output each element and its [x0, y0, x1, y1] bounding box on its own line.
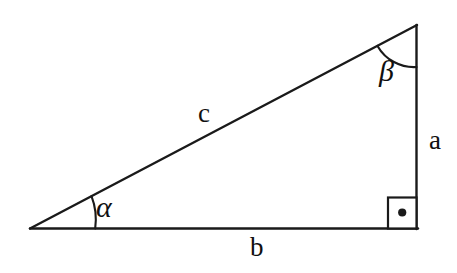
- side-a-label: a: [429, 127, 441, 154]
- right-angle-dot-icon: [398, 208, 406, 216]
- angle-alpha-label: α: [96, 192, 112, 222]
- angle-beta-label: β: [379, 56, 394, 86]
- side-b-label: b: [250, 234, 264, 261]
- right-triangle-figure: [0, 0, 457, 273]
- geometry-diagram: c b a α β: [0, 0, 457, 273]
- side-c-label: c: [198, 100, 210, 127]
- side-c-line: [30, 25, 417, 229]
